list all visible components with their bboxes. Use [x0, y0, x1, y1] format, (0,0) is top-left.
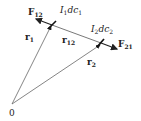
- current-element-2: [97, 39, 104, 47]
- label-f21: F21: [118, 39, 133, 50]
- label-r12: r12: [62, 35, 75, 46]
- force-f21-arrow: [101, 43, 117, 49]
- current-element-1: [48, 21, 56, 29]
- vector-r2: [12, 45, 100, 104]
- label-r2: r2: [87, 57, 96, 68]
- label-i2dc2: I2dc2: [90, 24, 113, 35]
- label-i1dc1: I1dc1: [59, 5, 82, 16]
- force-f12-arrow: [36, 19, 52, 25]
- vector-diagram: F12 I1dc1 r1 r12 I2dc2 F21 r2 0: [0, 0, 141, 121]
- label-f12: F12: [28, 7, 43, 18]
- label-origin: 0: [9, 108, 15, 118]
- label-r1: r1: [25, 32, 34, 43]
